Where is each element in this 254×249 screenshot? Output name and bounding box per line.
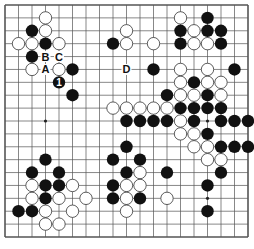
black-stone[interactable]	[12, 205, 24, 217]
black-stone[interactable]	[201, 205, 213, 217]
black-stone[interactable]	[201, 12, 213, 24]
black-stone[interactable]	[134, 153, 146, 165]
white-stone[interactable]	[215, 76, 227, 88]
white-stone[interactable]	[107, 102, 119, 114]
white-stone[interactable]	[174, 89, 186, 101]
white-stone[interactable]	[39, 218, 51, 230]
white-stone[interactable]	[120, 205, 132, 217]
white-stone[interactable]	[188, 25, 200, 37]
white-stone[interactable]	[174, 63, 186, 75]
black-stone[interactable]	[147, 63, 159, 75]
black-stone[interactable]	[215, 166, 227, 178]
white-stone[interactable]	[66, 205, 78, 217]
white-stone[interactable]	[188, 37, 200, 49]
white-stone[interactable]	[201, 37, 213, 49]
white-stone[interactable]	[215, 89, 227, 101]
black-stone[interactable]	[201, 128, 213, 140]
black-stone[interactable]	[107, 37, 119, 49]
white-stone[interactable]	[120, 179, 132, 191]
white-stone[interactable]	[134, 102, 146, 114]
black-stone[interactable]	[134, 192, 146, 204]
black-stone[interactable]	[201, 89, 213, 101]
black-stone[interactable]	[147, 115, 159, 127]
black-stone[interactable]	[53, 179, 65, 191]
white-stone[interactable]	[26, 63, 38, 75]
black-stone[interactable]	[228, 115, 240, 127]
black-stone[interactable]	[228, 63, 240, 75]
white-stone[interactable]	[80, 192, 92, 204]
white-stone[interactable]	[134, 179, 146, 191]
white-stone[interactable]	[120, 192, 132, 204]
black-stone[interactable]	[174, 102, 186, 114]
white-stone[interactable]	[215, 153, 227, 165]
white-stone[interactable]	[174, 76, 186, 88]
go-board[interactable]: 1BCAD	[0, 0, 254, 249]
black-stone[interactable]	[161, 166, 173, 178]
black-stone[interactable]	[107, 153, 119, 165]
black-stone[interactable]	[188, 115, 200, 127]
white-stone[interactable]	[201, 76, 213, 88]
black-stone[interactable]	[215, 102, 227, 114]
black-stone[interactable]	[26, 166, 38, 178]
white-stone[interactable]	[174, 12, 186, 24]
white-stone[interactable]	[120, 102, 132, 114]
white-stone[interactable]	[26, 192, 38, 204]
white-stone[interactable]	[53, 218, 65, 230]
white-stone[interactable]	[39, 25, 51, 37]
black-stone[interactable]	[26, 50, 38, 62]
black-stone[interactable]	[26, 25, 38, 37]
white-stone[interactable]	[161, 192, 173, 204]
black-stone[interactable]	[174, 25, 186, 37]
black-stone[interactable]	[107, 192, 119, 204]
black-stone[interactable]	[39, 192, 51, 204]
black-stone[interactable]	[201, 25, 213, 37]
black-stone[interactable]	[26, 205, 38, 217]
black-stone[interactable]	[53, 166, 65, 178]
black-stone[interactable]	[215, 25, 227, 37]
black-stone[interactable]	[201, 179, 213, 191]
black-stone[interactable]	[201, 102, 213, 114]
white-stone[interactable]	[201, 63, 213, 75]
white-stone[interactable]	[201, 141, 213, 153]
white-stone[interactable]	[188, 128, 200, 140]
black-stone[interactable]	[107, 179, 119, 191]
black-stone[interactable]	[161, 89, 173, 101]
white-stone[interactable]	[201, 153, 213, 165]
black-stone[interactable]	[120, 166, 132, 178]
white-stone[interactable]	[39, 12, 51, 24]
white-stone[interactable]	[188, 141, 200, 153]
white-stone[interactable]	[174, 128, 186, 140]
black-stone[interactable]	[188, 76, 200, 88]
black-stone[interactable]	[39, 37, 51, 49]
white-stone[interactable]	[39, 205, 51, 217]
black-stone[interactable]	[188, 102, 200, 114]
white-stone[interactable]	[12, 37, 24, 49]
black-stone[interactable]	[120, 141, 132, 153]
black-stone[interactable]	[174, 37, 186, 49]
black-stone[interactable]	[215, 115, 227, 127]
white-stone[interactable]	[147, 37, 159, 49]
white-stone[interactable]	[120, 25, 132, 37]
black-stone[interactable]	[66, 63, 78, 75]
black-stone[interactable]	[66, 89, 78, 101]
black-stone[interactable]	[228, 141, 240, 153]
white-stone[interactable]	[26, 37, 38, 49]
white-stone[interactable]	[147, 102, 159, 114]
white-stone[interactable]	[53, 37, 65, 49]
black-stone[interactable]	[215, 37, 227, 49]
white-stone[interactable]	[134, 166, 146, 178]
white-stone[interactable]	[66, 179, 78, 191]
black-stone[interactable]	[215, 141, 227, 153]
black-stone[interactable]	[120, 115, 132, 127]
black-stone[interactable]	[242, 141, 254, 153]
black-stone[interactable]	[161, 115, 173, 127]
black-stone[interactable]	[134, 115, 146, 127]
black-stone[interactable]	[242, 115, 254, 127]
white-stone[interactable]	[161, 102, 173, 114]
white-stone[interactable]	[174, 115, 186, 127]
white-stone[interactable]	[53, 63, 65, 75]
black-stone[interactable]	[39, 153, 51, 165]
white-stone[interactable]	[120, 37, 132, 49]
white-stone[interactable]	[188, 89, 200, 101]
black-stone[interactable]	[39, 179, 51, 191]
